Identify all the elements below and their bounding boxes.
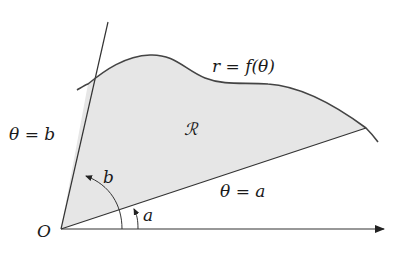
polar-region-diagram: r = f(θ) ℛ θ = b θ = a b a O	[0, 0, 404, 257]
label-angle-b: b	[103, 167, 114, 187]
label-curve: r = f(θ)	[212, 56, 275, 76]
label-ray-a: θ = a	[220, 181, 265, 201]
angle-arc-a	[134, 209, 138, 229]
label-ray-b: θ = b	[9, 124, 55, 144]
label-origin: O	[37, 221, 51, 241]
label-region: ℛ	[184, 119, 199, 139]
label-angle-a: a	[143, 205, 153, 225]
